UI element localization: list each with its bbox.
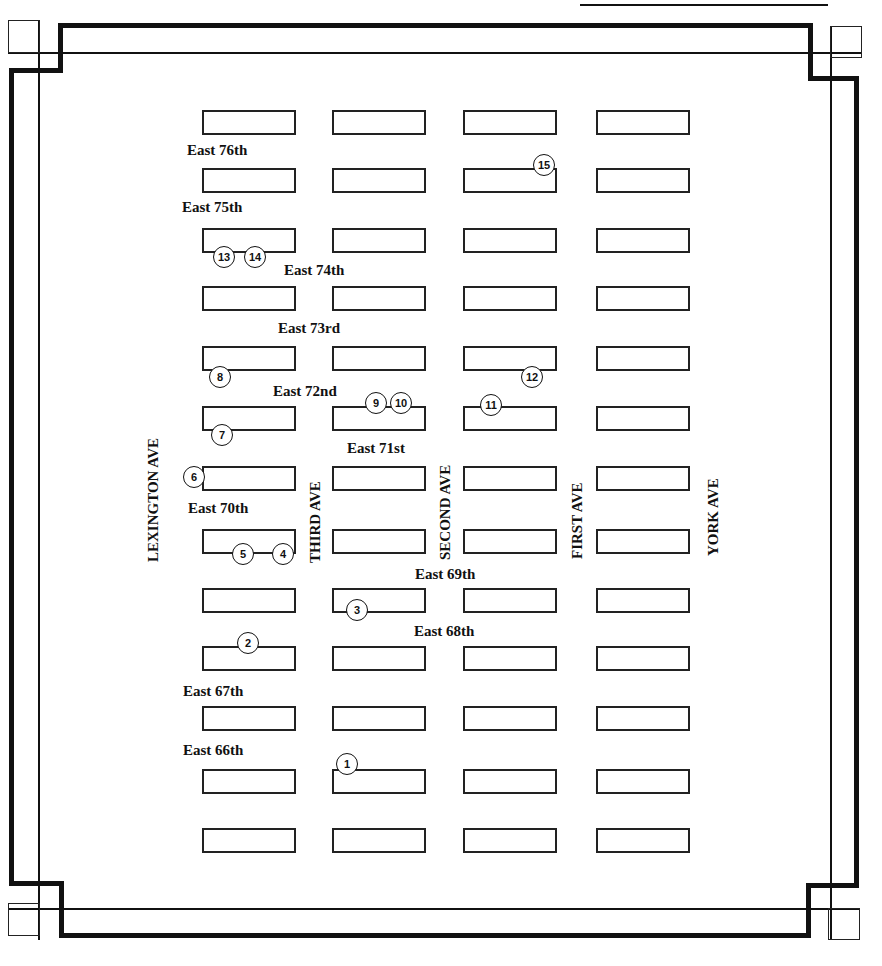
street-label-e76: East 76th: [187, 143, 247, 158]
street-label-e73: East 73rd: [278, 321, 340, 336]
frame-corner-square-bl: [8, 903, 40, 936]
street-label-e68: East 68th: [414, 624, 474, 639]
city-block: [596, 406, 690, 431]
city-block: [596, 466, 690, 491]
frame-corner-square-tl: [8, 20, 40, 53]
avenue-label-lexington: LEXINGTON AVE: [146, 438, 161, 562]
location-marker-1[interactable]: 1: [336, 753, 358, 775]
city-block: [202, 828, 296, 853]
avenue-label-second: SECOND AVE: [438, 465, 453, 560]
frame-thick-br-step-v: [806, 883, 811, 938]
city-block: [332, 529, 426, 554]
frame-thick-bottom: [59, 933, 811, 938]
street-label-e71: East 71st: [347, 441, 405, 456]
city-block: [202, 588, 296, 613]
city-block: [202, 168, 296, 193]
location-marker-13[interactable]: 13: [213, 246, 235, 268]
frame-thick-tl-step-v: [58, 23, 63, 73]
street-label-e69: East 69th: [415, 567, 475, 582]
city-block: [332, 286, 426, 311]
city-block: [596, 346, 690, 371]
location-marker-10[interactable]: 10: [390, 392, 412, 414]
street-label-e66: East 66th: [183, 743, 243, 758]
city-block: [463, 646, 557, 671]
frame-thin-left: [38, 20, 40, 940]
street-label-e67: East 67th: [183, 684, 243, 699]
frame-thick-right: [854, 76, 859, 888]
city-block: [463, 588, 557, 613]
location-marker-3[interactable]: 3: [346, 599, 368, 621]
city-block: [463, 286, 557, 311]
location-marker-4[interactable]: 4: [272, 543, 294, 565]
city-block: [332, 828, 426, 853]
city-block: [332, 466, 426, 491]
city-block: [596, 110, 690, 135]
city-block: [596, 168, 690, 193]
location-marker-11[interactable]: 11: [480, 394, 502, 416]
city-block: [463, 769, 557, 794]
city-block: [463, 406, 557, 431]
frame-corner-square-br: [828, 908, 860, 940]
city-block: [463, 529, 557, 554]
city-block: [463, 110, 557, 135]
frame-thick-top: [58, 23, 812, 28]
city-block: [596, 286, 690, 311]
location-marker-5[interactable]: 5: [232, 543, 254, 565]
location-marker-7[interactable]: 7: [211, 424, 233, 446]
frame-thin-bottom: [8, 908, 860, 910]
frame-top-rule: [580, 4, 828, 6]
city-block: [332, 228, 426, 253]
city-block: [202, 466, 296, 491]
street-label-e75: East 75th: [182, 200, 242, 215]
frame-thick-bl-step-v: [59, 881, 64, 938]
frame-thick-tr-step-h: [808, 76, 859, 81]
city-block: [202, 286, 296, 311]
city-block: [332, 706, 426, 731]
city-block: [596, 828, 690, 853]
avenue-label-york: YORK AVE: [706, 478, 721, 556]
city-block: [202, 769, 296, 794]
city-block: [596, 588, 690, 613]
street-label-e72: East 72nd: [273, 384, 337, 399]
frame-thick-tl-step-h: [9, 68, 63, 73]
location-marker-15[interactable]: 15: [533, 154, 555, 176]
location-marker-2[interactable]: 2: [237, 632, 259, 654]
street-label-e70: East 70th: [188, 501, 248, 516]
avenue-label-third: THIRD AVE: [308, 481, 323, 563]
location-marker-14[interactable]: 14: [244, 246, 266, 268]
location-marker-12[interactable]: 12: [521, 366, 543, 388]
city-block: [596, 769, 690, 794]
city-block: [332, 110, 426, 135]
city-block: [596, 228, 690, 253]
location-marker-9[interactable]: 9: [365, 392, 387, 414]
city-block: [463, 828, 557, 853]
avenue-label-first: FIRST AVE: [570, 482, 585, 559]
city-block: [202, 706, 296, 731]
city-block: [463, 346, 557, 371]
frame-thin-right: [830, 26, 832, 940]
location-marker-6[interactable]: 6: [183, 466, 205, 488]
frame-thick-left: [9, 68, 14, 886]
city-block: [596, 706, 690, 731]
city-block: [332, 346, 426, 371]
neighborhood-map: East 76thEast 75thEast 74thEast 73rdEast…: [0, 0, 882, 966]
city-block: [463, 706, 557, 731]
city-block: [463, 466, 557, 491]
city-block: [332, 168, 426, 193]
frame-thick-bl-step-h: [9, 881, 63, 886]
city-block: [463, 228, 557, 253]
location-marker-8[interactable]: 8: [209, 366, 231, 388]
frame-thin-top: [8, 52, 862, 54]
city-block: [596, 529, 690, 554]
street-label-e74: East 74th: [284, 263, 344, 278]
city-block: [596, 646, 690, 671]
frame-thick-br-step-h: [806, 883, 859, 888]
city-block: [202, 110, 296, 135]
frame-corner-square-tr: [830, 26, 862, 58]
city-block: [332, 646, 426, 671]
